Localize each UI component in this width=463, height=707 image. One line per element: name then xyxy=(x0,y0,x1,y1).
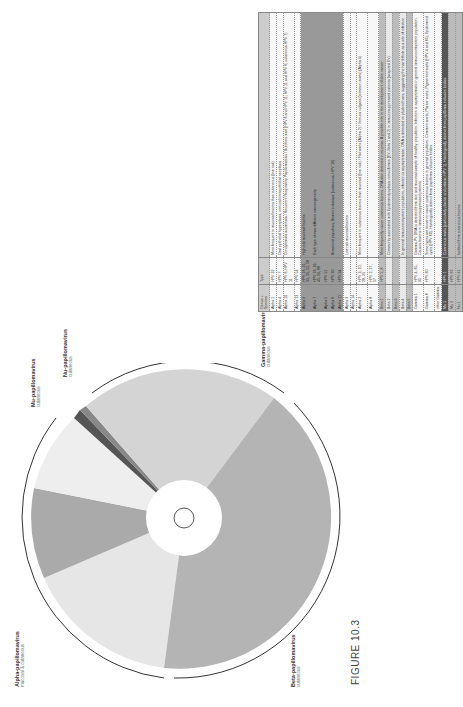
table-row: Alpha 8HPV 2, 27, 57 xyxy=(368,13,379,312)
cell-type: HPV 6, HPV 11 xyxy=(283,258,294,285)
table-row: other Gamma xyxy=(435,13,442,312)
cell-type xyxy=(343,258,350,285)
cell-genus: Beta 1 xyxy=(379,285,386,312)
table-row: Gamma 1HPV 4, 65, 95Gamma-PV DNA is dete… xyxy=(413,13,424,312)
cell-genus: Beta 3 xyxy=(392,285,399,312)
cell-desc: Commonly associated with Epidermodysplas… xyxy=(386,13,393,258)
clade-gamma-label: Gamma-papillomaviruscutaneous xyxy=(260,306,271,367)
table-row: Beta 1HPV 5, 8Most frequently cause cuta… xyxy=(379,13,386,312)
cell-desc xyxy=(294,13,301,258)
cell-desc: Isolated from cutaneous lesions xyxy=(455,13,462,258)
cell-type: HPV 51 xyxy=(323,258,330,285)
cell-genus: Nu 1 xyxy=(455,285,462,312)
cell-genus: Alpha 11 xyxy=(336,285,343,312)
cell-type: HPV 3, 10, 28, 29 xyxy=(357,258,368,285)
clade-alpha-label: Alpha-papillomavirusmucosal & cutaneous xyxy=(14,631,25,687)
cell-desc xyxy=(406,13,413,258)
cell-desc: Condylomata acuminata / Recurrent Respir… xyxy=(283,13,294,258)
cell-desc xyxy=(368,13,379,258)
cell-desc: Cutaneous warts (particularly plantar an… xyxy=(442,13,449,258)
cell-desc xyxy=(336,13,343,258)
cell-genus: Alpha 6 xyxy=(330,285,337,312)
cell-desc: Each type shows different carcinogenicit… xyxy=(312,13,323,258)
cell-type: HPV 32 xyxy=(270,258,277,285)
clade-mu-label: Mu-papillomaviruscutaneous xyxy=(30,358,41,407)
cell-desc: Bowenoid papulosis, Bowen's disease (cut… xyxy=(330,13,337,258)
cell-type xyxy=(386,258,393,285)
table-row: Alpha 9HPV 16, 31, 33, 35, 52, 58High ri… xyxy=(301,13,312,312)
cell-genus: Beta 4 xyxy=(399,285,406,312)
cell-type: HPV 5, 8 xyxy=(379,258,386,285)
cell-genus: Gamma 6 xyxy=(424,285,435,312)
table-row: Alpha 6HPV 30Bowenoid papulosis, Bowen's… xyxy=(330,13,337,312)
cell-genus: Gamma 1 xyxy=(413,285,424,312)
table-row: Beta 4In general immunocompetent populat… xyxy=(399,13,406,312)
cell-desc xyxy=(392,13,399,258)
cell-type: HPV 16, 31, 33, 35, 52, 58 xyxy=(301,258,312,285)
cell-desc: More frequent in cutaneous lesions than … xyxy=(357,13,368,258)
table-row: Alpha 2HPV 3, 10, 28, 29More frequent in… xyxy=(357,13,368,312)
cell-type: HPV 34 xyxy=(336,258,343,285)
cell-genus: Alpha 10 xyxy=(283,285,294,312)
hpv-classification-table: Genus + Species Type Alpha 1HPV 32More f… xyxy=(258,12,463,312)
cell-desc: Gamma-PV DNA is detected from skin and m… xyxy=(413,13,424,258)
table-row: Alpha 14 xyxy=(350,13,357,312)
table-row: Alpha 13HPV 54 xyxy=(294,13,301,312)
table-row: Alpha 4HPV 7Oral epithelial hyperplasia,… xyxy=(276,13,283,312)
table-row: Alpha 10HPV 6, HPV 11Condylomata acumina… xyxy=(283,13,294,312)
cell-genus: Beta 5 xyxy=(406,285,413,312)
cell-desc: Low risk mucosal lesions xyxy=(343,13,350,258)
table-row: Alpha 3Low risk mucosal lesions xyxy=(343,13,350,312)
cell-type: HPV 7 xyxy=(276,258,283,285)
cell-desc: Most frequently cause cutaneous lesions.… xyxy=(379,13,386,258)
table-row: Alpha 1HPV 32More frequent in mucosal le… xyxy=(270,13,277,312)
table-row: Alpha 11HPV 34 xyxy=(336,13,343,312)
cell-genus: Alpha 7 xyxy=(312,285,323,312)
table-header: Genus + Species Type xyxy=(259,13,270,312)
cell-desc: Oral epithelial hyperplasia, cervical in… xyxy=(276,13,283,258)
cell-genus: Alpha 8 xyxy=(368,285,379,312)
clade-beta-label: Beta-papillomaviruscutaneous xyxy=(290,634,301,687)
cell-genus: Mu 2 xyxy=(448,285,455,312)
cell-type xyxy=(392,258,399,285)
table-row: Alpha 7HPV 18, 39, 45, 59, 68Each type s… xyxy=(312,13,323,312)
table-row: Alpha 5HPV 51 xyxy=(323,13,330,312)
table-row: Mu 1HPV 1Cutaneous warts (particularly p… xyxy=(442,13,449,312)
cell-desc xyxy=(435,13,442,258)
cell-type: HPV 4, 65, 95 xyxy=(413,258,424,285)
cell-desc xyxy=(350,13,357,258)
cell-genus: Alpha 5 xyxy=(323,285,330,312)
cell-genus: Alpha 13 xyxy=(294,285,301,312)
cell-type: HPV 63 xyxy=(448,258,455,285)
table-row: Mu 2HPV 63 xyxy=(448,13,455,312)
cell-type xyxy=(406,258,413,285)
cell-desc: High risk mucosal lesions xyxy=(301,13,312,258)
cell-desc: More frequent in mucosal lesions than cu… xyxy=(270,13,277,258)
cell-genus: Beta 2 xyxy=(386,285,393,312)
cell-genus: Alpha 4 xyxy=(276,285,283,312)
cell-type xyxy=(435,258,442,285)
cell-genus: Alpha 2 xyxy=(357,285,368,312)
cell-type: HPV 30 xyxy=(330,258,337,285)
cell-genus: other Gamma xyxy=(435,285,442,312)
cell-genus: Alpha 1 xyxy=(270,285,277,312)
table-row: Nu 1HPV 41Isolated from cutaneous lesion… xyxy=(455,13,462,312)
cell-type: HPV 41 xyxy=(455,258,462,285)
table-row: Beta 3 xyxy=(392,13,399,312)
cell-desc: In general immunocompetent population, i… xyxy=(399,13,406,258)
cell-genus: Alpha 9 xyxy=(301,285,312,312)
cell-genus: Alpha 14 xyxy=(350,285,357,312)
cell-genus: Mu 1 xyxy=(442,285,449,312)
cell-desc xyxy=(323,13,330,258)
cell-genus: Alpha 3 xyxy=(343,285,350,312)
cell-type: HPV 18, 39, 45, 59, 68 xyxy=(312,258,323,285)
cell-desc xyxy=(448,13,455,258)
table-row: Beta 2Commonly associated with Epidermod… xyxy=(386,13,393,312)
table-row: Beta 5 xyxy=(406,13,413,312)
cell-type xyxy=(350,258,357,285)
cell-type: HPV 60 xyxy=(424,258,435,285)
figure-label: FIGURE 10.3 xyxy=(350,619,361,685)
clade-nu-label: Nu-papillomaviruscutaneous xyxy=(62,329,73,377)
phylogenetic-tree xyxy=(14,363,354,693)
